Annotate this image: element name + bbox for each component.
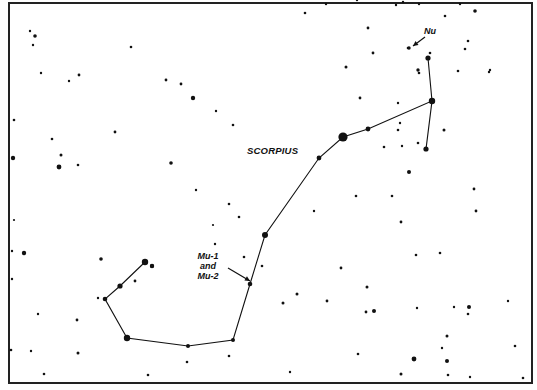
constellation-line — [105, 58, 432, 346]
star — [228, 355, 231, 358]
star-field — [10, 0, 525, 379]
star — [77, 164, 80, 167]
star — [22, 251, 26, 255]
constellation-star — [262, 232, 268, 238]
constellation-line — [426, 101, 432, 149]
constellation-star — [186, 344, 190, 348]
star — [191, 96, 195, 100]
star — [30, 350, 32, 352]
star — [407, 170, 411, 174]
star — [60, 154, 63, 157]
constellation-star — [425, 55, 430, 60]
star — [326, 300, 329, 303]
star — [355, 195, 358, 198]
star — [304, 12, 307, 15]
constellation-stars — [103, 46, 436, 348]
star — [214, 243, 216, 245]
star — [446, 335, 449, 338]
star — [464, 48, 467, 51]
star — [68, 80, 70, 82]
mu-label-line2: and — [194, 261, 222, 271]
constellation-star — [142, 259, 148, 265]
chart-frame — [9, 3, 532, 383]
constellation-star — [338, 132, 347, 141]
star — [77, 352, 80, 355]
star — [444, 15, 447, 18]
pointer-arrows — [228, 37, 425, 281]
star — [400, 221, 403, 224]
star — [340, 267, 343, 270]
star — [475, 210, 478, 213]
star — [469, 376, 471, 378]
star — [296, 293, 299, 296]
star — [445, 359, 449, 363]
star — [130, 46, 133, 49]
star — [51, 138, 54, 141]
constellation-star — [150, 264, 154, 268]
star — [282, 302, 285, 305]
constellation-star — [407, 46, 410, 49]
star — [165, 79, 168, 82]
star — [397, 102, 399, 104]
mu-label-line1: Mu-1 — [194, 251, 222, 261]
star — [359, 97, 362, 100]
star — [367, 27, 370, 30]
star — [415, 254, 418, 257]
star — [232, 124, 235, 127]
constellation-star — [366, 127, 371, 132]
star — [416, 307, 418, 309]
star — [186, 361, 189, 364]
star — [372, 309, 376, 313]
star — [195, 189, 197, 191]
star — [228, 203, 231, 206]
constellation-star — [231, 338, 235, 342]
star — [243, 256, 246, 259]
star — [261, 265, 264, 268]
star — [78, 74, 81, 77]
star — [13, 119, 16, 122]
star — [447, 374, 450, 377]
star — [400, 373, 403, 376]
mu-label-line3: Mu-2 — [194, 271, 222, 281]
star — [397, 129, 400, 132]
star — [37, 313, 39, 315]
star — [147, 374, 150, 377]
star — [345, 66, 348, 69]
star — [33, 34, 37, 38]
star — [418, 72, 421, 75]
star — [29, 30, 31, 32]
star — [391, 195, 394, 198]
star — [114, 131, 117, 134]
nu-star-label: Nu — [424, 26, 436, 36]
star — [289, 371, 291, 373]
star — [383, 146, 386, 149]
star — [467, 40, 470, 43]
star — [429, 52, 432, 55]
mu-stars-label: Mu-1 and Mu-2 — [194, 251, 222, 281]
star — [169, 161, 173, 165]
star — [401, 145, 403, 147]
star — [11, 156, 15, 160]
star — [417, 142, 420, 145]
star — [13, 219, 15, 221]
constellation-star — [103, 297, 108, 302]
star — [40, 72, 42, 74]
constellation-lines — [105, 58, 432, 346]
star — [212, 224, 214, 226]
star — [76, 319, 79, 322]
star — [313, 210, 315, 212]
star — [11, 250, 13, 252]
star — [412, 357, 417, 362]
star — [402, 1, 404, 3]
star — [459, 3, 461, 5]
star — [366, 286, 369, 289]
star — [57, 165, 62, 170]
star — [453, 306, 455, 308]
constellation-star — [423, 146, 428, 151]
star — [11, 278, 13, 280]
star-chart — [0, 0, 537, 390]
star — [473, 188, 476, 191]
star — [99, 257, 103, 261]
star — [372, 52, 375, 55]
star — [399, 122, 401, 124]
